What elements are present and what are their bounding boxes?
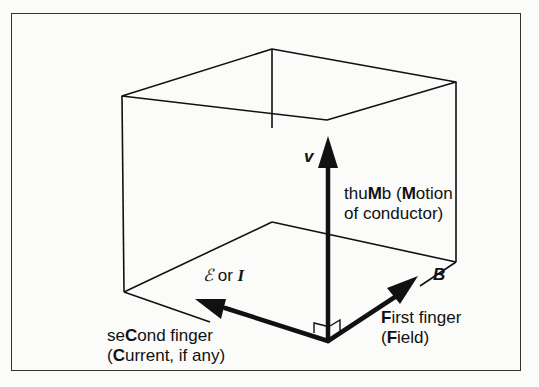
current-label: seCond finger (Current, if any) — [107, 326, 225, 366]
current-symbol: ℰ or I — [203, 266, 244, 286]
motion-arrowhead — [318, 136, 338, 168]
cube-edge-bottom-right-back — [272, 222, 456, 262]
right-angle-marker — [314, 323, 326, 333]
current-vector — [225, 308, 328, 341]
cube-edge-left — [122, 96, 124, 292]
motion-symbol: v — [304, 147, 313, 167]
cube-edge-bottom-left-back — [124, 222, 272, 292]
motion-label: thuMb (Motion of conductor) — [344, 184, 453, 224]
cube-edge-bottom-left-front — [124, 292, 210, 322]
field-label: First finger (Field) — [381, 308, 461, 348]
field-symbol: B — [433, 265, 445, 285]
current-arrowhead — [195, 299, 226, 319]
cube-top-face — [122, 49, 456, 120]
